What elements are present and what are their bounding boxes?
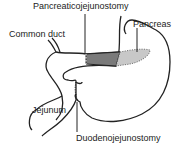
label-common-duct: Common duct xyxy=(9,29,66,39)
label-duodenojejunostomy: Duodenojejunostomy xyxy=(76,133,161,143)
pancreas-region xyxy=(116,49,150,66)
common-duct xyxy=(48,38,60,52)
stomach-outline xyxy=(75,20,170,121)
jejunum-fold xyxy=(63,72,82,84)
label-pancreas: Pancreas xyxy=(133,19,172,29)
duodenum xyxy=(29,52,62,130)
label-pancreaticojejunostomy: Pancreaticojejunostomy xyxy=(33,1,129,11)
surgical-diagram: Pancreaticojejunostomy Pancreas Common d… xyxy=(0,0,179,147)
label-jejunum: Jejunum xyxy=(32,105,66,115)
pancreaticojejunostomy-region xyxy=(86,52,120,66)
